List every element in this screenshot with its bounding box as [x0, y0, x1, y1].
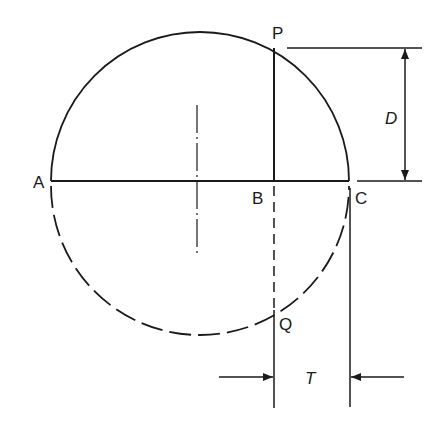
- lower-semicircle-arc-dashed: [51, 186, 349, 335]
- label-T: T: [305, 369, 317, 388]
- label-B: B: [252, 189, 263, 208]
- label-P: P: [272, 24, 283, 43]
- label-A: A: [33, 173, 45, 192]
- label-D: D: [385, 109, 397, 128]
- label-C: C: [355, 189, 367, 208]
- circle-geometry-diagram: A B C P Q D T: [0, 0, 437, 425]
- upper-semicircle-arc: [51, 32, 349, 181]
- label-Q: Q: [279, 315, 292, 334]
